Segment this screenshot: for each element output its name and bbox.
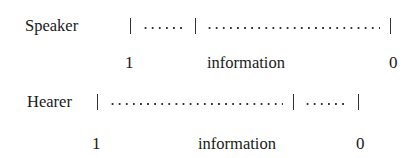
speaker-bar-start	[130, 18, 131, 34]
speaker-short-segment	[142, 27, 185, 29]
hearer-scale-start: 1	[92, 135, 101, 152]
hearer-long-segment	[109, 103, 283, 105]
speaker-bar-end	[390, 18, 391, 34]
speaker-scale-start: 1	[125, 54, 134, 71]
speaker-label: Speaker	[25, 18, 78, 35]
speaker-bar-middle	[195, 18, 196, 34]
speaker-long-segment	[206, 27, 380, 29]
hearer-bar-end	[358, 94, 359, 110]
speaker-scale-end: 0	[389, 54, 398, 71]
hearer-bar-start	[97, 94, 98, 110]
hearer-short-segment	[304, 103, 347, 105]
hearer-scale-end: 0	[356, 135, 365, 152]
hearer-label: Hearer	[27, 94, 72, 111]
hearer-bar-middle	[293, 94, 294, 110]
hearer-scale-label: information	[198, 136, 276, 153]
speaker-scale-label: information	[207, 55, 285, 72]
